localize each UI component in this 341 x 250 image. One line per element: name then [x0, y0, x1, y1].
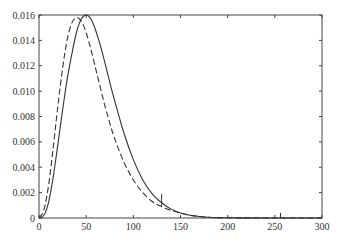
- y-tick-label: 0: [30, 213, 35, 224]
- y-tick-label: 0.010: [13, 86, 36, 97]
- series-solid: [39, 15, 322, 218]
- x-tick-label: 50: [81, 221, 91, 232]
- y-tick-label: 0.002: [13, 187, 36, 198]
- y-tick-label: 0.008: [13, 111, 36, 122]
- x-tick-label: 100: [126, 221, 141, 232]
- y-tick-label: 0.016: [13, 10, 36, 21]
- series-dashed: [39, 18, 322, 218]
- y-tick-label: 0.014: [13, 35, 36, 46]
- y-tick-label: 0.006: [13, 136, 36, 147]
- x-tick-label: 300: [315, 221, 330, 232]
- x-tick-label: 250: [267, 221, 282, 232]
- y-tick-label: 0.012: [13, 60, 36, 71]
- x-tick-label: 0: [37, 221, 42, 232]
- axis-ticks: 05010015020025030000.0020.0040.0060.0080…: [13, 10, 330, 233]
- plot-border: [39, 15, 322, 218]
- series-lines: [39, 15, 322, 218]
- x-tick-label: 200: [220, 221, 235, 232]
- line-chart: 05010015020025030000.0020.0040.0060.0080…: [0, 0, 341, 250]
- y-tick-label: 0.004: [13, 162, 36, 173]
- axes-frame: [39, 15, 322, 218]
- x-tick-label: 150: [173, 221, 188, 232]
